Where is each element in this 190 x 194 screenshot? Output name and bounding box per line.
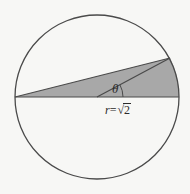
equals-sign: = bbox=[110, 103, 117, 117]
square-root-icon: √2 bbox=[116, 103, 131, 116]
theta-label: θ bbox=[112, 82, 118, 95]
radicand-value: 2 bbox=[123, 103, 131, 116]
geometry-figure: θ r=√2 bbox=[0, 0, 190, 194]
radius-label: r=√2 bbox=[105, 103, 131, 116]
geometry-diagram-svg bbox=[0, 0, 190, 194]
